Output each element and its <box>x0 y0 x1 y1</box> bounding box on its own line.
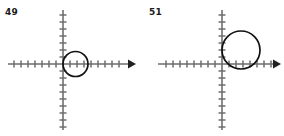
x-axis-arrow-left <box>128 60 136 69</box>
coordinate-plane-left <box>0 0 142 136</box>
graph-panel-right: 51 <box>142 0 284 136</box>
coordinate-plane-right <box>142 0 284 136</box>
x-axis-ticks-negative-left <box>14 61 56 68</box>
x-axis-arrow-right <box>273 60 281 69</box>
figure-sheet: 49 <box>0 0 284 136</box>
y-axis-ticks-positive-left <box>60 15 67 57</box>
graph-panel-left: 49 <box>0 0 142 136</box>
